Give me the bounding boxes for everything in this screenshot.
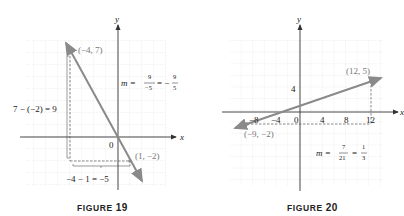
- grid: [230, 40, 382, 185]
- rise-label: 7 − (−2) = 9: [13, 104, 57, 114]
- y-axis-label: y: [296, 14, 301, 24]
- caption-number: 20: [326, 202, 338, 213]
- slope-frac2-num: 9: [173, 73, 176, 80]
- slope-frac1-den: −5: [145, 84, 152, 91]
- origin-label: 0: [109, 140, 114, 150]
- caption-word: FIGURE: [77, 203, 113, 213]
- x-tick: 12: [366, 115, 375, 125]
- slope-frac2-den: 3: [362, 154, 365, 161]
- x-tick: 0: [294, 115, 299, 125]
- slope-frac2-den: 5: [173, 84, 176, 91]
- point-a-label: (12, 5): [346, 66, 370, 76]
- x-tick: −8: [249, 115, 259, 125]
- point-a: [68, 50, 72, 54]
- x-tick: −4: [271, 115, 281, 125]
- slope-eq: =: [352, 148, 357, 158]
- run-label: −4 − 1 = −5: [66, 174, 109, 184]
- figure-20: [222, 25, 398, 191]
- x-tick: 8: [344, 115, 349, 125]
- slope-eq: = −: [157, 78, 169, 88]
- point-b-label: (1, −2): [135, 151, 160, 161]
- slope-frac1-den: 21: [339, 154, 346, 161]
- point-a-label: (−4, 7): [78, 45, 103, 55]
- point-b: [128, 159, 132, 163]
- point-b-label: (−9, −2): [244, 129, 274, 139]
- figure-19-caption: FIGURE 19: [77, 202, 128, 213]
- slope-m: m =: [121, 78, 136, 88]
- slope-frac2-num: 1: [362, 143, 365, 150]
- caption-word: FIGURE: [287, 203, 323, 213]
- x-axis-label: x: [399, 107, 404, 117]
- figure-20-caption: FIGURE 20: [287, 202, 338, 213]
- point-a: [369, 79, 373, 83]
- y-tick-4: 4: [291, 84, 296, 94]
- caption-number: 19: [116, 202, 128, 213]
- slope-frac1-num: 9: [148, 73, 151, 80]
- y-axis-label: y: [114, 14, 119, 24]
- x-axis-label: x: [179, 132, 184, 142]
- x-tick: 4: [320, 115, 325, 125]
- slope-m: m =: [316, 148, 331, 158]
